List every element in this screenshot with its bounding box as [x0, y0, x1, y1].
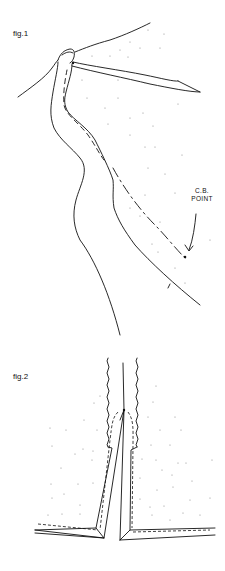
fig1-collar-back: [62, 52, 73, 55]
fig2-base-right-lower: [120, 535, 215, 540]
fig2-strap-left-wavy: [107, 358, 109, 447]
fig2-strap-right-wavy: [136, 358, 138, 447]
cb-point-marker: [184, 256, 187, 259]
fig2-apex-marker: [123, 409, 125, 411]
fig2-left-step: [96, 447, 112, 528]
fig1-strap-right: [65, 64, 200, 305]
fig1-collar-top: [58, 49, 74, 63]
fig1-upper-edge: [75, 23, 150, 52]
fig1-tick: [168, 284, 170, 288]
fig1-strap-left: [51, 62, 120, 335]
collar-marker: [72, 62, 74, 64]
fig1-left-edge: [18, 60, 58, 97]
fig1-cb-arrow: [189, 214, 196, 250]
fig1-band-lower: [72, 66, 200, 92]
sewing-illustration: [0, 0, 225, 571]
fig2-right-step: [130, 447, 137, 530]
fig2-stitching-lines: [38, 412, 210, 532]
fig1-cb-dashline: [113, 168, 185, 258]
fig1-band-end: [178, 81, 200, 92]
fig2-base-right: [120, 528, 215, 540]
fig2-center-line: [123, 363, 124, 410]
